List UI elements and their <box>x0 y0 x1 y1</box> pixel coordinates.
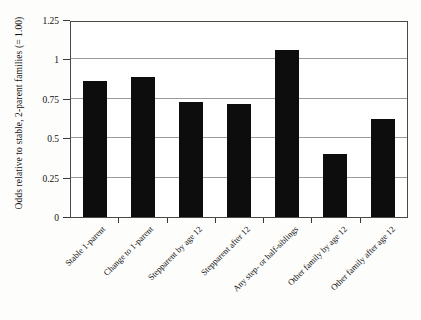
y-axis-tick-group: 00.250.50.7511.25 <box>0 21 70 218</box>
y-axis-tick-label: 1 <box>54 55 59 65</box>
bar-5[interactable] <box>275 50 299 217</box>
x-axis-label-2: Change to 1-parent <box>102 224 156 278</box>
x-axis-tick-mark <box>118 218 119 223</box>
y-axis-tick-mark <box>63 178 70 179</box>
y-axis-tick-label: 0.75 <box>42 95 59 105</box>
x-axis-tick-mark <box>311 218 312 223</box>
bar-slot <box>119 22 167 217</box>
bar-slot <box>263 22 311 217</box>
bar-slot <box>71 22 119 217</box>
y-axis-tick-mark <box>63 138 70 139</box>
bar-3[interactable] <box>179 102 203 217</box>
x-axis-tick-mark <box>167 218 168 223</box>
bar-slot <box>215 22 263 217</box>
y-axis-tick-label: 0 <box>54 213 59 223</box>
bar-slot <box>359 22 407 217</box>
y-axis-tick-mark <box>63 99 70 100</box>
y-axis-tick-label: 0.5 <box>47 134 59 144</box>
plot-area <box>70 21 408 218</box>
x-axis-tick-mark <box>215 218 216 223</box>
bar-slot <box>311 22 359 217</box>
bars-layer <box>71 22 407 217</box>
bar-4[interactable] <box>227 104 251 217</box>
x-axis-label-group: Stable 1-parentChange to 1-parentSteppar… <box>70 224 408 320</box>
y-axis-tick-mark <box>63 20 70 21</box>
y-axis-tick-label: 0.25 <box>42 174 59 184</box>
y-axis-tick-label: 1.25 <box>42 16 59 26</box>
bar-1[interactable] <box>83 81 107 217</box>
x-axis-tick-group <box>70 218 408 223</box>
bar-6[interactable] <box>323 154 347 217</box>
bar-chart-figure: Odds relative to stable, 2-parent famili… <box>0 0 421 320</box>
y-axis-tick-mark <box>63 59 70 60</box>
y-axis-tick-mark <box>63 217 70 218</box>
x-axis-label-1: Stable 1-parent <box>63 224 107 268</box>
bar-7[interactable] <box>371 119 395 217</box>
bar-2[interactable] <box>131 77 155 217</box>
x-axis-tick-mark <box>360 218 361 223</box>
bar-slot <box>167 22 215 217</box>
x-axis-tick-mark <box>263 218 264 223</box>
x-axis-label-3: Stepparent by age 12 <box>146 224 204 282</box>
x-axis-label-4: Stepparent after 12 <box>199 224 252 277</box>
